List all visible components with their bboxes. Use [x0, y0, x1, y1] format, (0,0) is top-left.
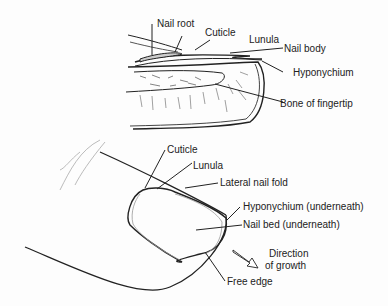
- label-nail-root: Nail root: [157, 18, 194, 29]
- label-bone-of-fingertip: Bone of fingertip: [280, 98, 353, 109]
- label-cuticle-top: Cuticle: [167, 144, 198, 155]
- label-lunula-section: Lunula: [249, 34, 279, 45]
- label-hyponychium-underneath: Hyponychium (underneath): [243, 201, 364, 212]
- label-lunula-top: Lunula: [193, 160, 223, 171]
- label-nail-bed-underneath: Nail bed (underneath): [243, 219, 340, 230]
- label-free-edge: Free edge: [227, 276, 273, 287]
- label-hyponychium-section: Hyponychium: [293, 67, 354, 78]
- label-direction-line1: Direction: [269, 248, 308, 259]
- nail-anatomy-diagram: Nail root Cuticle Lunula Nail body Hypon…: [0, 0, 388, 306]
- top-view-drawing: [25, 140, 258, 290]
- label-direction-line2: of growth: [265, 260, 306, 271]
- label-nail-body: Nail body: [284, 43, 326, 54]
- label-cuticle-section: Cuticle: [205, 27, 236, 38]
- label-lateral-nail-fold: Lateral nail fold: [220, 177, 288, 188]
